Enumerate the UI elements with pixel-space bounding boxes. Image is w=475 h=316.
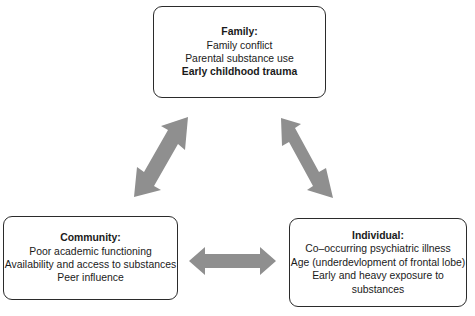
node-community-item: Peer influence	[4, 271, 177, 284]
arrow-family-individual	[281, 118, 333, 198]
node-community: Community: Poor academic functioning Ava…	[3, 216, 178, 300]
node-individual-item: Age (underdevlopment of frontal lobe)	[290, 256, 466, 269]
node-family-item: Family conflict	[154, 39, 325, 52]
node-family-item: Parental substance use	[154, 52, 325, 65]
arrow-community-individual	[189, 247, 276, 275]
node-family: Family: Family conflict Parental substan…	[153, 6, 326, 98]
node-family-item: Early childhood trauma	[154, 65, 325, 78]
node-community-item: Poor academic functioning	[4, 245, 177, 258]
node-individual-title: Individual:	[290, 229, 466, 242]
arrow-family-community	[134, 117, 188, 197]
node-family-title: Family:	[154, 25, 325, 38]
node-individual-item: Early and heavy exposure to	[290, 269, 466, 282]
node-individual: Individual: Co–occurring psychiatric ill…	[289, 218, 467, 307]
node-community-item: Availability and access to substances	[4, 258, 177, 271]
node-individual-item: substances	[290, 283, 466, 296]
node-individual-item: Co–occurring psychiatric illness	[290, 242, 466, 255]
node-community-title: Community:	[4, 231, 177, 244]
